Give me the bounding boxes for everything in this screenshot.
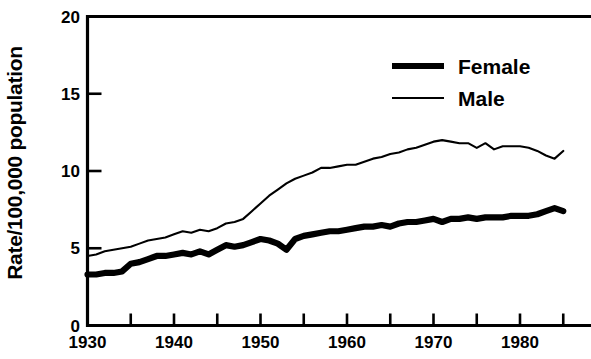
legend-swatch-male-icon: [392, 92, 444, 104]
x-axis-ticks: [88, 314, 564, 326]
y-axis-ticks: [88, 94, 102, 249]
legend-label-female: Female: [458, 56, 530, 77]
series-line-female: [88, 208, 564, 274]
legend-label-male: Male: [458, 88, 505, 109]
legend-item-male: Male: [392, 82, 582, 114]
chart-figure: Rate/100,000 population 05101520 1930194…: [0, 0, 591, 359]
legend-swatch-female-icon: [392, 60, 444, 72]
series-line-male: [88, 140, 564, 256]
legend-item-female: Female: [392, 50, 582, 82]
chart-legend: Female Male: [392, 50, 582, 114]
